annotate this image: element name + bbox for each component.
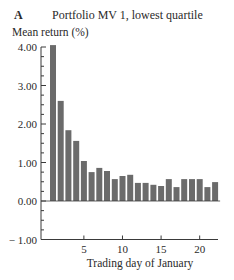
bar-day-21 [204, 187, 210, 201]
bar-day-13 [143, 183, 149, 201]
bar-day-3 [65, 130, 71, 201]
bar-day-6 [89, 172, 95, 201]
y-tick-label: 1.00 [18, 157, 38, 169]
x-tick-label: 10 [117, 243, 129, 255]
x-tick-label: 5 [81, 243, 87, 255]
bar-chart: 4.003.002.001.000.00− 1.00 5101520 [0, 0, 234, 280]
bar-day-1 [50, 45, 56, 201]
bar-day-17 [174, 187, 180, 201]
bar-day-20 [197, 179, 203, 201]
bar-day-18 [181, 179, 187, 201]
y-tick-label: 3.00 [18, 80, 38, 92]
y-tick-label: − 1.00 [9, 234, 38, 246]
bar-day-16 [166, 179, 172, 201]
bar-day-8 [104, 171, 110, 201]
bar-day-10 [120, 176, 126, 201]
x-axis: 5101520 [41, 236, 218, 255]
y-tick-label: 0.00 [18, 195, 38, 207]
x-tick-label: 20 [194, 243, 206, 255]
y-tick-label: 4.00 [18, 41, 38, 53]
bar-day-11 [127, 175, 133, 201]
y-tick-label: 2.00 [18, 118, 38, 130]
bar-day-5 [81, 161, 87, 201]
x-tick-label: 15 [156, 243, 168, 255]
bar-day-19 [189, 179, 195, 201]
bar-day-22 [212, 182, 218, 201]
bar-day-14 [150, 185, 156, 201]
bar-day-2 [58, 101, 64, 201]
bar-day-4 [73, 141, 79, 201]
bar-day-9 [112, 179, 118, 201]
bar-day-15 [158, 186, 164, 201]
bars-group [50, 45, 218, 201]
bar-day-7 [96, 168, 102, 201]
y-axis: 4.003.002.001.000.00− 1.00 [9, 41, 220, 246]
bar-day-12 [135, 183, 141, 201]
